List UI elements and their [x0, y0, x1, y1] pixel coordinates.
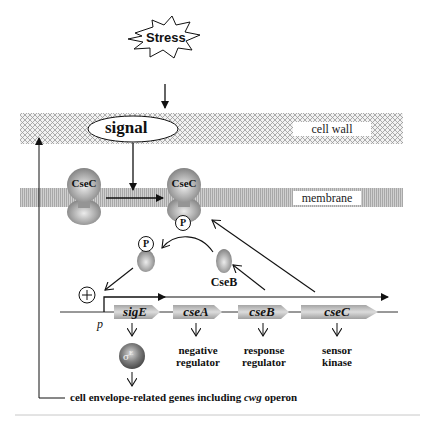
- stress-label: Stress: [146, 31, 186, 44]
- gene-label-cseC: cseC: [301, 305, 373, 318]
- gene-label-cseB: cseB: [238, 305, 286, 318]
- output-genes-label: cell envelope-related genes including cw…: [70, 392, 297, 403]
- cseA-description-line1: negative: [170, 344, 226, 356]
- cseb-to-promoter-arrow: [105, 268, 133, 290]
- cseC-description-line1: sensor: [315, 344, 359, 356]
- cseA-description: negative regulator: [170, 344, 226, 368]
- cseb-free-protein: [216, 249, 232, 273]
- cseb-phospho-protein: [137, 250, 155, 272]
- cseb-label: CseB: [206, 276, 242, 288]
- membrane-label: membrane: [293, 191, 361, 205]
- phospho-transfer-arrow: [162, 237, 213, 252]
- csec-active-label: CseC: [169, 178, 199, 189]
- cseB-description-line1: response: [236, 344, 292, 356]
- signal-label: signal: [105, 119, 148, 136]
- csec-phospho-label: P: [179, 218, 187, 228]
- promoter-label: p: [97, 318, 103, 330]
- cseb-phospho-label: P: [142, 239, 150, 249]
- sigma-e-label: σE: [123, 350, 133, 362]
- cseB-description: response regulator: [236, 344, 292, 368]
- sigma-superscript: E: [129, 349, 133, 357]
- gene-label-sigE: sigE: [114, 305, 156, 318]
- cseC-description: sensor kinase: [315, 344, 359, 368]
- cell-wall-label: cell wall: [293, 122, 371, 136]
- csec-inactive-label: CseC: [69, 178, 99, 189]
- cseC-description-line2: kinase: [315, 356, 359, 368]
- output-prefix: cell envelope-related genes including: [70, 391, 244, 403]
- cseB-description-line2: regulator: [236, 356, 292, 368]
- output-suffix: operon: [262, 391, 298, 403]
- feedback-loop-arrow: [39, 138, 65, 398]
- output-italic: cwg: [244, 391, 262, 403]
- gene-label-cseA: cseA: [173, 305, 219, 318]
- cseA-description-line2: regulator: [170, 356, 226, 368]
